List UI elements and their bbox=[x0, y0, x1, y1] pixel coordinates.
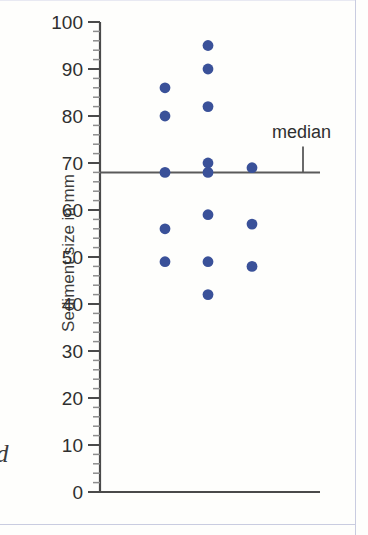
data-point bbox=[203, 158, 214, 169]
data-point bbox=[203, 64, 214, 75]
y-axis-tick-label: 60 bbox=[62, 200, 83, 221]
data-point bbox=[203, 209, 214, 220]
data-point bbox=[203, 40, 214, 51]
data-point bbox=[203, 101, 214, 112]
data-point bbox=[247, 219, 258, 230]
y-axis-tick-label: 50 bbox=[62, 247, 83, 268]
y-axis-tick-label: 80 bbox=[62, 106, 83, 127]
data-point bbox=[247, 162, 258, 173]
y-axis-tick-label: 20 bbox=[62, 388, 83, 409]
y-axis-tick-label: 30 bbox=[62, 341, 83, 362]
data-point bbox=[160, 223, 171, 234]
data-point bbox=[203, 167, 214, 178]
figure-page: d Sediment size in mm 010203040506070809… bbox=[0, 0, 368, 535]
y-axis-tick-label: 10 bbox=[62, 435, 83, 456]
data-point bbox=[160, 256, 171, 267]
data-point bbox=[203, 256, 214, 267]
data-point bbox=[160, 82, 171, 93]
median-label: median bbox=[272, 122, 331, 142]
data-point bbox=[247, 261, 258, 272]
y-axis-tick-label: 90 bbox=[62, 59, 83, 80]
y-axis-tick-label: 0 bbox=[72, 482, 83, 503]
y-axis-tick-label: 70 bbox=[62, 153, 83, 174]
data-point bbox=[160, 167, 171, 178]
data-point bbox=[160, 111, 171, 122]
y-axis-tick-label: 100 bbox=[51, 12, 83, 33]
y-axis-tick-label: 40 bbox=[62, 294, 83, 315]
data-point bbox=[203, 289, 214, 300]
dot-plot-chart: 0102030405060708090100median bbox=[0, 0, 368, 535]
